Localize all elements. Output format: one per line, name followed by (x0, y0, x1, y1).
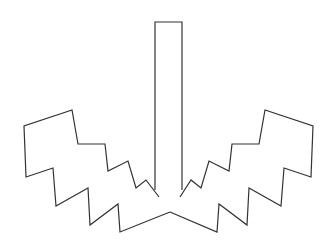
line-drawing (0, 0, 335, 252)
left-wing (24, 110, 170, 232)
stem-rectangle (155, 22, 182, 190)
right-wing (170, 110, 313, 232)
